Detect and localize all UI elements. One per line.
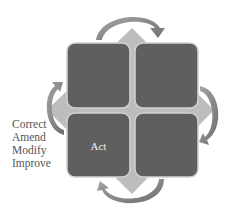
- quadrant-top-left: [67, 43, 130, 108]
- side-labels: Correct Amend Modify Improve: [12, 118, 51, 170]
- quadrant-bottom-right: [135, 113, 198, 177]
- label-amend: Amend: [12, 131, 51, 144]
- pdca-diagram: [0, 0, 229, 219]
- label-improve: Improve: [12, 157, 51, 170]
- quadrant-top-right: [135, 43, 198, 108]
- quadrant-act-label: Act: [67, 140, 130, 152]
- label-modify: Modify: [12, 144, 51, 157]
- label-correct: Correct: [12, 118, 51, 131]
